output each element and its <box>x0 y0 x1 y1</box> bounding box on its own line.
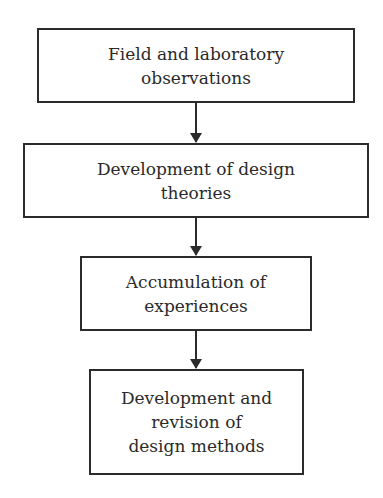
node-label: Accumulation of experiences <box>126 270 266 318</box>
node-design-methods: Development and revision of design metho… <box>89 369 304 475</box>
node-label: Field and laboratory observations <box>108 42 284 90</box>
arrow-2-to-3 <box>195 218 197 255</box>
node-accumulation-experiences: Accumulation of experiences <box>80 256 312 331</box>
node-field-lab-observations: Field and laboratory observations <box>37 28 355 103</box>
node-label: Development and revision of design metho… <box>121 386 272 458</box>
arrow-1-to-2 <box>195 103 197 142</box>
node-design-theories: Development of design theories <box>23 143 369 218</box>
node-label: Development of design theories <box>97 157 295 205</box>
arrow-3-to-4 <box>195 331 197 368</box>
